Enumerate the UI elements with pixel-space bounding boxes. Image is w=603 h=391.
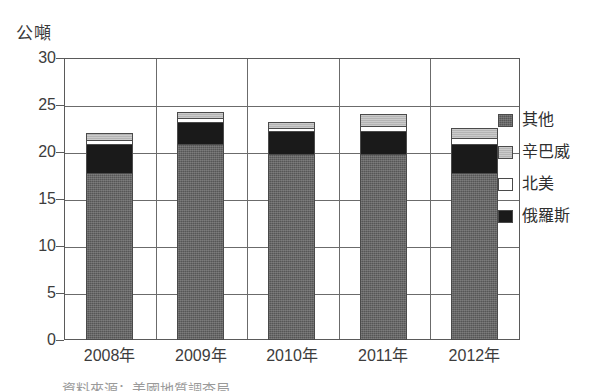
x-tick-label-2009年: 2009年 xyxy=(155,346,246,366)
y-tick-mark-5 xyxy=(56,293,64,294)
y-tick-mark-25 xyxy=(56,105,64,106)
bar-group xyxy=(338,58,429,340)
legend-label: 辛巴威 xyxy=(522,143,570,161)
legend-swatch-icon xyxy=(498,178,513,191)
bar-group xyxy=(246,58,337,340)
chart-legend: 其他辛巴威北美俄羅斯 xyxy=(498,104,598,232)
y-axis-unit-label: 公噸 xyxy=(16,24,51,44)
legend-label: 俄羅斯 xyxy=(522,207,570,225)
legend-swatch-icon xyxy=(498,146,513,159)
y-tick-label-20: 20 xyxy=(16,144,56,160)
y-tick-label-10: 10 xyxy=(16,238,56,254)
bar-segment[interactable] xyxy=(452,174,497,339)
bar-segment[interactable] xyxy=(269,132,314,155)
legend-item-其他[interactable]: 其他 xyxy=(498,104,598,136)
y-tick-mark-30 xyxy=(56,58,64,59)
bar-segment[interactable] xyxy=(452,129,497,138)
y-tick-label-25: 25 xyxy=(16,97,56,113)
x-tick-label-2008年: 2008年 xyxy=(64,346,155,366)
bar-segment[interactable] xyxy=(361,132,406,155)
bar-segment[interactable] xyxy=(361,115,406,126)
bar-segment[interactable] xyxy=(269,123,314,130)
bar-segment[interactable] xyxy=(178,123,223,146)
stacked-bar-chart: 公噸 051015202530 2008年2009年2010年2011年2012… xyxy=(0,0,603,391)
bar-stack[interactable] xyxy=(451,128,498,340)
x-tick-label-2010年: 2010年 xyxy=(246,346,337,366)
legend-swatch-icon xyxy=(498,210,513,223)
legend-label: 其他 xyxy=(522,111,554,129)
x-axis: 2008年2009年2010年2011年2012年 xyxy=(64,346,520,372)
bar-stack[interactable] xyxy=(268,122,315,340)
legend-label: 北美 xyxy=(522,175,554,193)
y-tick-label-5: 5 xyxy=(16,285,56,301)
bar-group xyxy=(64,58,155,340)
y-tick-mark-0 xyxy=(56,340,64,341)
y-tick-mark-15 xyxy=(56,199,64,200)
bar-segment[interactable] xyxy=(452,145,497,173)
bar-segment[interactable] xyxy=(178,113,223,120)
bar-stack[interactable] xyxy=(360,114,407,340)
y-tick-mark-10 xyxy=(56,246,64,247)
bar-stack[interactable] xyxy=(86,133,133,340)
y-tick-label-0: 0 xyxy=(16,332,56,348)
bar-segment[interactable] xyxy=(452,139,497,146)
x-tick-label-2012年: 2012年 xyxy=(429,346,520,366)
x-tick-label-2011年: 2011年 xyxy=(338,346,429,366)
bar-segment[interactable] xyxy=(87,134,132,141)
legend-swatch-icon xyxy=(498,114,513,127)
bar-segment[interactable] xyxy=(87,145,132,173)
legend-item-辛巴威[interactable]: 辛巴威 xyxy=(498,136,598,168)
bar-segment[interactable] xyxy=(269,155,314,339)
legend-item-北美[interactable]: 北美 xyxy=(498,168,598,200)
bar-stack[interactable] xyxy=(177,112,224,341)
y-tick-label-15: 15 xyxy=(16,191,56,207)
source-caption-clipped: 資料來源：美國地質調查局 xyxy=(62,381,522,391)
bar-segment[interactable] xyxy=(178,145,223,339)
bar-segment[interactable] xyxy=(87,174,132,339)
y-tick-label-30: 30 xyxy=(16,50,56,66)
bars-layer xyxy=(64,58,520,340)
bar-group xyxy=(155,58,246,340)
bar-segment[interactable] xyxy=(361,155,406,339)
y-tick-mark-20 xyxy=(56,152,64,153)
legend-item-俄羅斯[interactable]: 俄羅斯 xyxy=(498,200,598,232)
